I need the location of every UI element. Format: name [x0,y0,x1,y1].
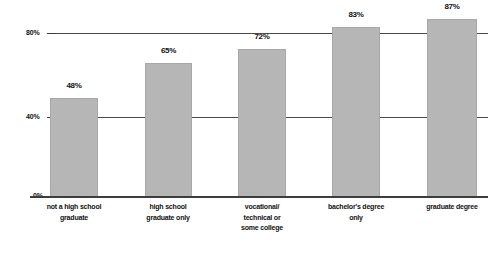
category-line: some college [216,223,308,234]
bar-chart: 80% 40% 0% 48% 65% 72% 83% 87% not a hig… [0,0,504,256]
bar-value-label: 48% [50,81,98,90]
plot-area: 80% 40% 0% 48% 65% 72% 83% 87% not a hig… [0,0,504,256]
category-line: bachelor's degree [308,202,404,213]
x-axis-baseline [30,196,488,198]
category-line: technical or [216,213,308,224]
x-axis-category-label: bachelor's degree only [308,202,404,223]
category-line: not a high school [26,202,122,213]
bar-graduate-degree[interactable] [427,19,477,197]
bar-value-label: 72% [238,32,286,41]
x-axis-category-label: not a high school graduate [26,202,122,223]
bar-bachelors-degree-only[interactable] [332,27,380,197]
bar-value-label: 65% [145,46,192,55]
x-axis-category-label: graduate degree [404,202,500,213]
y-axis-label-40: 40% [26,113,38,120]
bar-high-school-graduate-only[interactable] [145,63,192,197]
category-line: high school [122,202,214,213]
bar-value-label: 87% [427,2,477,11]
category-line: graduate degree [404,202,500,213]
category-line: graduate only [122,213,214,224]
bar-value-label: 83% [332,10,380,19]
category-line: graduate [26,213,122,224]
category-line: vocational/ [216,202,308,213]
x-axis-category-label: high school graduate only [122,202,214,223]
category-line: only [308,213,404,224]
y-tickmark-80 [47,33,56,34]
bar-vocational-technical-some-college[interactable] [238,49,286,197]
x-axis-category-label: vocational/ technical or some college [216,202,308,234]
bar-not-a-high-school-graduate[interactable] [50,98,98,197]
y-axis-label-80: 80% [26,29,38,36]
